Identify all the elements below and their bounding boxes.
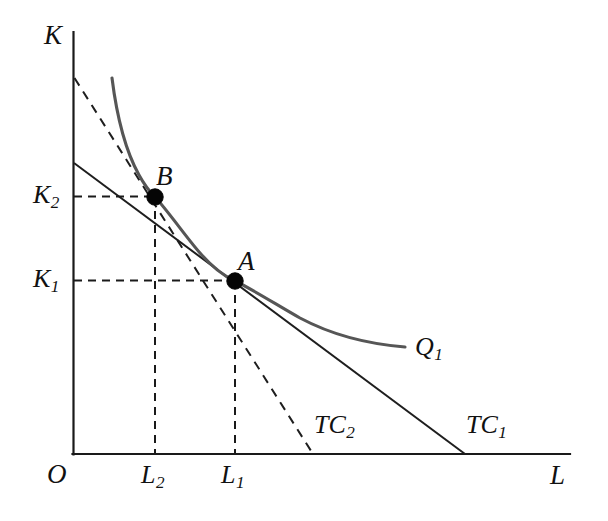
curve-label-q1-base: Q: [415, 332, 434, 361]
figure-canvas: [0, 0, 608, 521]
curve-label-q1: Q1: [415, 334, 443, 363]
curve-label-tc1-subscript: 1: [498, 423, 507, 442]
tick-label-l1-base: L: [221, 460, 235, 489]
point-marker-b: [147, 189, 163, 205]
tick-label-l1: L1: [221, 462, 245, 491]
tick-label-k2-base: K: [33, 180, 50, 209]
tick-label-l1-subscript: 1: [236, 473, 245, 492]
curve-label-tc1-base: TC: [466, 410, 498, 439]
point-label-a: A: [238, 248, 255, 275]
tick-label-k1-subscript: 1: [51, 277, 60, 296]
point-label-b: B: [156, 163, 173, 190]
tick-label-k2: K2: [33, 182, 59, 211]
tc2-isocost-line: [75, 78, 314, 454]
curve-label-tc2-base: TC: [314, 410, 346, 439]
k-axis-label: K: [44, 22, 62, 49]
tick-label-k2-subscript: 2: [51, 193, 60, 212]
curve-label-tc2-subscript: 2: [346, 423, 355, 442]
curve-label-tc2: TC2: [314, 412, 355, 441]
tick-label-l2-base: L: [141, 460, 155, 489]
l-axis-label: L: [550, 462, 565, 489]
tc1-isocost-line: [74, 163, 465, 454]
tick-label-l2-subscript: 2: [156, 473, 165, 492]
isoquant-isocost-figure: K L O K2 K1 L2 L1 B A Q1 TC2 TC1: [0, 0, 608, 521]
curve-label-q1-subscript: 1: [434, 345, 443, 364]
curve-label-tc1: TC1: [466, 412, 507, 441]
tick-label-l2: L2: [141, 462, 165, 491]
origin-label: O: [47, 461, 67, 488]
tick-label-k1-base: K: [33, 264, 50, 293]
tick-label-k1: K1: [33, 266, 59, 295]
